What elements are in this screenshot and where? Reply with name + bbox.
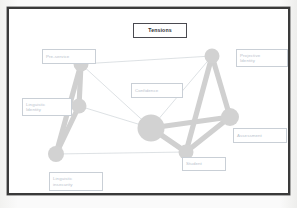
node-label-text-linguistic-identity: Linguistic Identity: [26, 102, 45, 113]
node-label-text-confidence: Confidence: [135, 88, 158, 94]
node-label-text-assessment: Assessment: [237, 133, 262, 139]
slide-frame: Pre-serviceProjective IdentityLinguistic…: [7, 7, 290, 195]
node-label-box-linguistic-identity: Linguistic Identity: [22, 98, 72, 116]
node-label-text-student: Student: [186, 161, 202, 167]
node-label-box-assessment: Assessment: [233, 128, 287, 143]
node-label-box-pre-service: Pre-service: [42, 49, 96, 64]
graph-node-assessment[interactable]: [221, 108, 239, 126]
graph-node-linguistic-insecurity[interactable]: [48, 146, 64, 162]
node-label-box-student: Student: [182, 157, 226, 171]
node-label-text-linguistic-insecurity: Linguistic insecurity: [53, 176, 73, 187]
diagram-title-text: Tensions: [148, 28, 172, 34]
node-label-box-linguistic-insecurity: Linguistic insecurity: [49, 172, 103, 191]
node-label-text-pre-service: Pre-service: [46, 54, 69, 60]
graph-edge: [81, 56, 212, 64]
diagram-canvas: Pre-serviceProjective IdentityLinguistic…: [9, 9, 288, 193]
diagram-title-box: Tensions: [133, 23, 187, 38]
graph-node-confidence[interactable]: [138, 115, 165, 142]
node-label-box-projective-identity: Projective Identity: [236, 49, 288, 67]
graph-edge: [56, 152, 186, 154]
graph-node-projective-identity[interactable]: [205, 49, 220, 64]
node-label-box-confidence: Confidence: [131, 83, 183, 98]
node-label-text-projective-identity: Projective Identity: [240, 53, 260, 64]
graph-node-linguistic-identity[interactable]: [72, 99, 87, 114]
screenshot-root: Pre-serviceProjective IdentityLinguistic…: [0, 0, 297, 208]
graph-edge: [212, 56, 230, 117]
